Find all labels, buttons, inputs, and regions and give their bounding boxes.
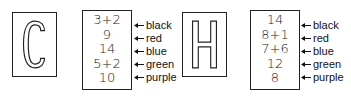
value-item: 8+1 [251, 28, 299, 43]
color-label: green [313, 58, 341, 71]
letter-h-outline [183, 13, 226, 76]
color-label: green [146, 58, 174, 71]
value-item: 5+2 [83, 57, 131, 72]
color-label: black [146, 19, 172, 32]
value-item: 12 [251, 57, 299, 72]
value-list-1: 3+2 9 14 5+2 10 [82, 10, 132, 90]
value-item: 9 [83, 28, 131, 43]
letter-c-outline [13, 13, 56, 76]
arrow-left-icon [301, 22, 311, 29]
arrow-left-icon [134, 48, 144, 55]
letter-card-h [182, 12, 227, 77]
color-label: purple [313, 71, 344, 84]
arrow-left-icon [134, 61, 144, 68]
arrow-left-icon [134, 74, 144, 81]
color-label: red [313, 32, 329, 45]
value-item: 14 [83, 42, 131, 57]
color-labels-2: black red blue green purple [301, 19, 344, 84]
value-list-2: 14 8+1 7+6 12 8 [250, 10, 300, 90]
arrow-left-icon [301, 61, 311, 68]
arrow-left-icon [301, 74, 311, 81]
value-item: 8 [251, 71, 299, 86]
arrow-left-icon [301, 48, 311, 55]
value-item: 10 [83, 71, 131, 86]
letter-card-c [12, 12, 57, 77]
arrow-left-icon [301, 35, 311, 42]
color-label: blue [313, 45, 334, 58]
color-label: purple [146, 71, 177, 84]
value-item: 3+2 [83, 13, 131, 28]
color-label: red [146, 32, 162, 45]
color-labels-1: black red blue green purple [134, 19, 177, 84]
arrow-left-icon [134, 35, 144, 42]
value-item: 14 [251, 13, 299, 28]
value-item: 7+6 [251, 42, 299, 57]
color-label: black [313, 19, 339, 32]
color-label: blue [146, 45, 167, 58]
arrow-left-icon [134, 22, 144, 29]
